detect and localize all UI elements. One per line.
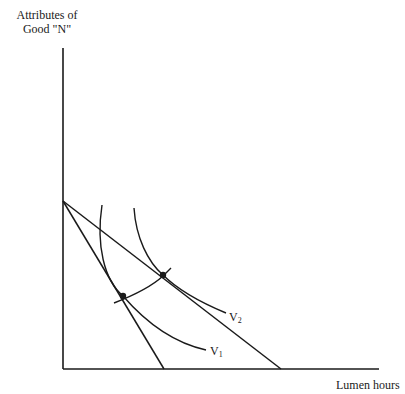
y-axis-label: Attributes of Good "N" xyxy=(0,8,94,36)
indifference-diagram: Attributes of Good "N" Lumen hours V2 V1 xyxy=(0,0,405,394)
tangency-point-v2 xyxy=(160,272,166,278)
diagram-canvas xyxy=(0,0,405,394)
curve-label-v1-letter: V xyxy=(210,344,219,358)
curve-label-v1: V1 xyxy=(210,344,223,359)
budget-line-shallow xyxy=(63,201,281,369)
indifference-curve-v1 xyxy=(100,205,206,350)
y-axis-label-line2: Good "N" xyxy=(0,22,94,36)
indifference-curve-v2 xyxy=(134,208,226,313)
curve-label-v2: V2 xyxy=(229,310,242,325)
x-axis-label: Lumen hours xyxy=(336,378,400,393)
tangency-point-v1 xyxy=(120,293,126,299)
curve-label-v2-subscript: 2 xyxy=(238,316,242,325)
curve-label-v2-letter: V xyxy=(229,310,238,324)
y-axis-label-line1: Attributes of xyxy=(0,8,94,22)
curve-label-v1-subscript: 1 xyxy=(219,350,223,359)
